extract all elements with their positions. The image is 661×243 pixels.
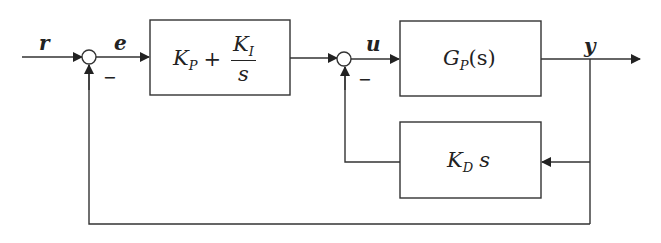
signal-y-label: y: [584, 36, 596, 56]
summing-junction-1: [82, 50, 96, 64]
pi-block-label: KP + KI s: [173, 34, 256, 85]
summing-junction-2: [337, 52, 351, 66]
block-diagram: r e − u − y KP + KI s GP(s) KDs: [0, 0, 661, 243]
derivative-block-label: KDs: [447, 150, 490, 174]
plant-block-label: GP(s): [443, 48, 496, 72]
plus-sign: +: [203, 49, 221, 70]
signal-r-label: r: [39, 33, 50, 53]
sum2-minus-sign: −: [358, 72, 371, 88]
signal-e-label: e: [114, 33, 127, 53]
signal-u-label: u: [366, 34, 381, 54]
kp-term: KP: [173, 48, 197, 72]
ki-fraction: KI s: [231, 34, 256, 85]
sum1-minus-sign: −: [103, 70, 116, 86]
diagram-lines: [0, 0, 661, 243]
